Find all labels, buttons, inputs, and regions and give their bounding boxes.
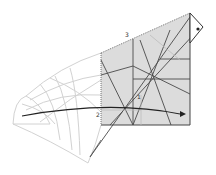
- kite-flap: [190, 13, 203, 43]
- label-1: 1: [137, 93, 141, 100]
- label-2: 2: [96, 111, 100, 118]
- label-3: 3: [125, 31, 129, 38]
- diagram-canvas: 3 1 2: [0, 0, 216, 175]
- kite-dot: [196, 27, 199, 30]
- flat-square: [101, 13, 190, 125]
